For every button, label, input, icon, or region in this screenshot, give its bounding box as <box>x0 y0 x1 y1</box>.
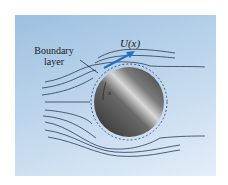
boundary-label-line1: Boundary <box>24 45 84 56</box>
boundary-label-line2: layer <box>24 56 84 67</box>
velocity-label: U(x) <box>120 38 140 49</box>
cylinder <box>94 67 164 137</box>
flow-diagram <box>0 0 228 185</box>
x-coordinate-label: x <box>108 88 111 99</box>
boundary-layer-label: Boundary layer <box>24 45 84 67</box>
